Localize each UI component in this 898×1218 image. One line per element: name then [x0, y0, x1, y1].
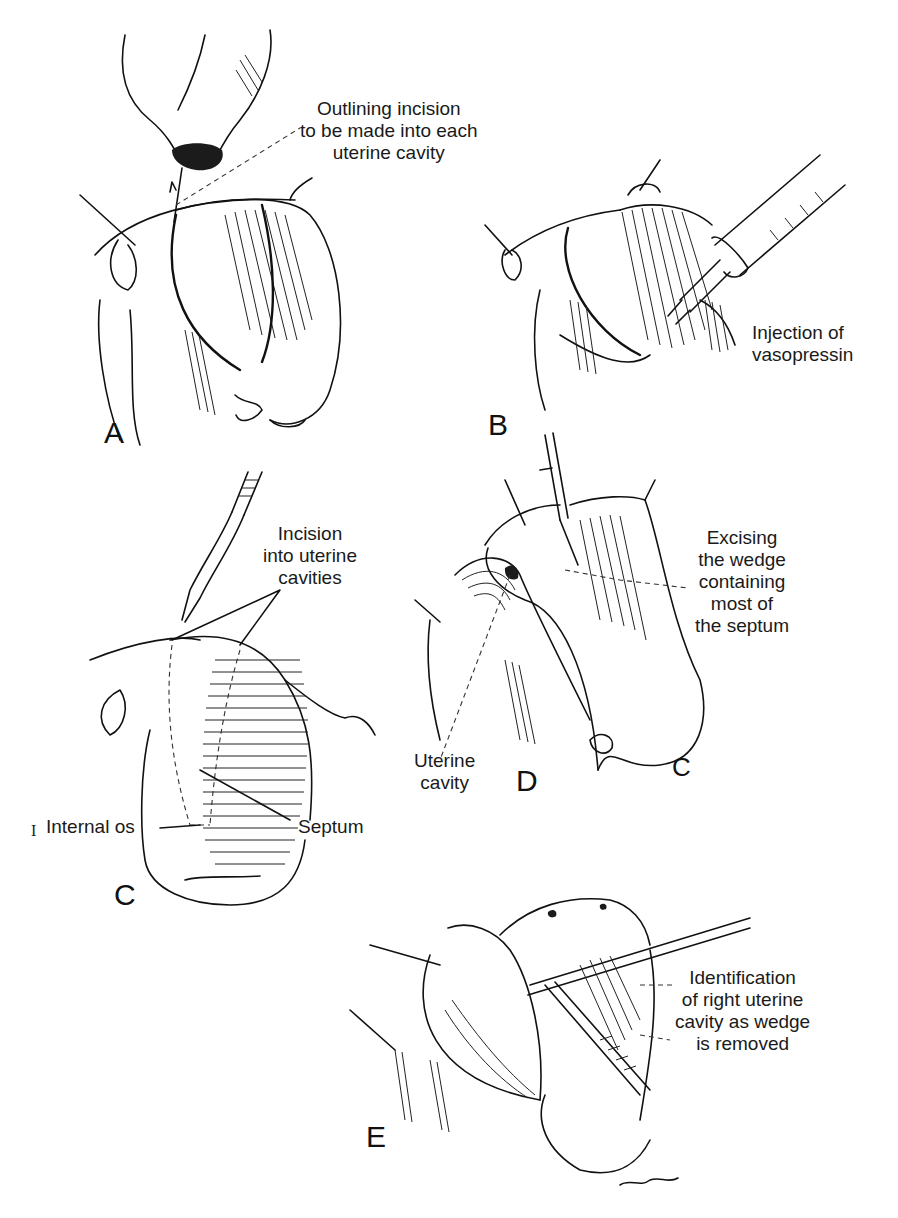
callout-incision-into-cavities: Incision into uterine cavities: [263, 523, 357, 589]
margin-mark: I: [31, 820, 36, 842]
callout-outlining-incision: Outlining incision to be made into each …: [300, 98, 477, 164]
callout-excising-wedge: Excising the wedge containing most of th…: [695, 527, 789, 637]
panel-label-c: C: [114, 880, 136, 910]
panel-label-b: B: [488, 410, 508, 440]
panel-label-a: A: [104, 418, 124, 448]
callout-injection-vasopressin: Injection of vasopressin: [752, 322, 853, 366]
scalpel-icon: [182, 472, 262, 622]
panel-b-drawing: [485, 155, 845, 410]
callout-internal-os: Internal os: [46, 816, 135, 838]
callout-identification-right-cavity: Identification of right uterine cavity a…: [675, 967, 810, 1055]
panel-a-drawing: [80, 30, 340, 445]
callout-uterine-cavity: Uterine cavity: [414, 750, 475, 794]
panel-label-e: E: [366, 1122, 386, 1152]
inner-mark-c: C: [672, 752, 691, 782]
panel-label-d: D: [516, 766, 538, 796]
syringe-icon: [668, 155, 845, 324]
panel-d-drawing: [415, 433, 704, 770]
callout-septum: Septum: [298, 816, 363, 838]
